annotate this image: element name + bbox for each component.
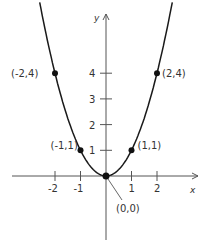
- parabola-chart: x y -2-1121234 (-2,4)(2,4)(-1,1)(1,1)(0,…: [0, 0, 206, 251]
- x-tick-label: 2: [154, 183, 160, 194]
- data-point: [52, 70, 58, 76]
- data-point: [129, 147, 135, 153]
- x-tick-label: -1: [74, 183, 84, 194]
- y-axis-label: y: [93, 13, 100, 23]
- data-point: [103, 173, 110, 180]
- point-label: (-1,1): [51, 140, 78, 151]
- x-axis-label: x: [189, 185, 196, 195]
- point-label: (2,4): [162, 68, 186, 79]
- axes: x y: [12, 13, 198, 240]
- data-point: [78, 147, 84, 153]
- data-point: [154, 70, 160, 76]
- point-label: (0,0): [116, 203, 140, 214]
- point-label: (1,1): [138, 140, 162, 151]
- y-tick-label: 3: [89, 94, 95, 105]
- y-tick-label: 1: [89, 145, 95, 156]
- origin-leader-line: [108, 179, 122, 200]
- point-label: (-2,4): [11, 68, 38, 79]
- y-tick-label: 2: [89, 120, 95, 131]
- x-tick-label: -2: [48, 183, 58, 194]
- x-tick-label: 1: [129, 183, 135, 194]
- y-tick-label: 4: [89, 68, 95, 79]
